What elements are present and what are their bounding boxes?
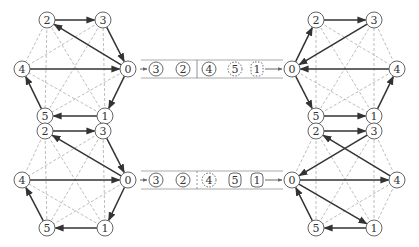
svg-text:5: 5: [313, 222, 320, 235]
svg-text:4: 4: [19, 174, 26, 187]
graph-node-4: 4: [389, 61, 405, 77]
dashed-edge: [316, 180, 397, 228]
svg-text:2: 2: [44, 14, 51, 27]
svg-text:1: 1: [254, 174, 261, 187]
dashed-edges-layer: [22, 20, 397, 228]
graph-node-1: 1: [366, 220, 382, 236]
dashed-edge: [45, 20, 103, 116]
sequence-item-4: 4: [202, 173, 216, 187]
directed-edge-0-to-2: [296, 28, 313, 62]
sequence-item-5: 5: [229, 173, 241, 187]
dashed-edge: [316, 20, 397, 69]
svg-text:0: 0: [289, 63, 296, 76]
dashed-edge: [22, 131, 103, 180]
graph-node-0: 0: [284, 61, 300, 77]
svg-text:0: 0: [125, 174, 132, 187]
svg-text:2: 2: [180, 63, 187, 76]
directed-edge-5-to-0: [296, 188, 313, 221]
sequence-item-3: 3: [149, 62, 163, 76]
graph-node-0: 0: [120, 61, 136, 77]
graph-node-4: 4: [14, 61, 30, 77]
svg-text:5: 5: [44, 222, 51, 235]
graph-node-2: 2: [308, 123, 324, 139]
directed-edge-0-to-2: [54, 24, 121, 64]
svg-text:2: 2: [313, 125, 320, 138]
svg-text:4: 4: [206, 174, 213, 187]
svg-text:3: 3: [100, 125, 107, 138]
directed-edge-3-to-0: [107, 138, 125, 172]
svg-text:3: 3: [153, 174, 160, 187]
graph-node-3: 3: [95, 12, 111, 28]
sequence-item-4: 4: [202, 62, 216, 76]
svg-text:3: 3: [153, 63, 160, 76]
dashed-edge: [103, 20, 105, 116]
dashed-edge: [45, 20, 47, 116]
svg-text:0: 0: [125, 63, 132, 76]
bottom-sequence: 32451: [140, 171, 283, 189]
svg-text:5: 5: [232, 174, 239, 187]
sequence-item-2: 2: [176, 62, 190, 76]
graph-node-5: 5: [39, 220, 55, 236]
top-sequence: 32451: [140, 60, 283, 78]
svg-text:4: 4: [206, 63, 213, 76]
directed-edge-0-to-5: [296, 76, 312, 108]
dashed-edge: [45, 69, 128, 116]
directed-edge-0-to-1: [109, 76, 125, 108]
sequence-item-5: 5: [228, 62, 242, 76]
nodes-layer: 012345012345012345012345: [14, 12, 405, 236]
svg-text:5: 5: [42, 110, 49, 123]
svg-text:1: 1: [102, 110, 109, 123]
svg-text:2: 2: [180, 174, 187, 187]
svg-text:3: 3: [371, 14, 378, 27]
graph-node-5: 5: [308, 108, 324, 124]
graph-node-2: 2: [39, 12, 55, 28]
graph-node-4: 4: [389, 172, 405, 188]
sequence-item-1: 1: [251, 173, 263, 187]
svg-text:1: 1: [254, 63, 261, 76]
dashed-edge: [47, 20, 105, 116]
graph-node-3: 3: [95, 123, 111, 139]
svg-text:1: 1: [371, 222, 378, 235]
graph-node-5: 5: [37, 108, 53, 124]
graph-node-0: 0: [120, 172, 136, 188]
svg-text:1: 1: [371, 110, 378, 123]
svg-text:0: 0: [289, 174, 296, 187]
diagram-svg: 3245132451 012345012345012345012345: [0, 0, 419, 247]
hamiltonian-cycle-diagram: 3245132451 012345012345012345012345: [0, 0, 419, 247]
sequence-layer: 3245132451: [140, 60, 283, 189]
sequence-item-2: 2: [176, 173, 190, 187]
directed-edge-1-to-4: [378, 77, 394, 109]
graph-node-1: 1: [366, 108, 382, 124]
svg-text:2: 2: [42, 125, 49, 138]
graph-node-3: 3: [366, 12, 382, 28]
svg-text:4: 4: [19, 63, 26, 76]
svg-text:3: 3: [371, 125, 378, 138]
graph-node-0: 0: [284, 172, 300, 188]
graph-node-1: 1: [97, 108, 113, 124]
graph-node-1: 1: [97, 220, 113, 236]
svg-text:4: 4: [394, 174, 401, 187]
directed-edge-5-to-4: [26, 77, 42, 109]
solid-edges-layer: [26, 20, 394, 228]
graph-node-5: 5: [308, 220, 324, 236]
sequence-item-1: 1: [251, 62, 263, 76]
directed-edge-5-to-4: [26, 188, 43, 221]
graph-node-3: 3: [366, 123, 382, 139]
svg-text:2: 2: [313, 14, 320, 27]
graph-node-2: 2: [37, 123, 53, 139]
graph-node-4: 4: [14, 172, 30, 188]
svg-text:5: 5: [232, 63, 239, 76]
svg-text:3: 3: [100, 14, 107, 27]
svg-text:4: 4: [394, 63, 401, 76]
dashed-edge: [22, 69, 105, 116]
svg-text:1: 1: [102, 222, 109, 235]
directed-edge-0-to-1: [109, 187, 125, 220]
svg-text:5: 5: [313, 110, 320, 123]
sequence-item-3: 3: [149, 173, 163, 187]
graph-node-2: 2: [308, 12, 324, 28]
directed-edge-3-to-0: [107, 27, 125, 61]
